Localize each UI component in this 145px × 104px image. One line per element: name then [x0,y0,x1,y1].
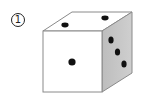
pip-front-center [68,58,75,65]
pip-right-2 [115,48,120,55]
pip-right-3 [121,60,126,67]
die-illustration [0,0,145,104]
pip-top-1 [61,23,68,28]
pip-top-2 [101,16,108,21]
pip-right-1 [108,36,113,43]
